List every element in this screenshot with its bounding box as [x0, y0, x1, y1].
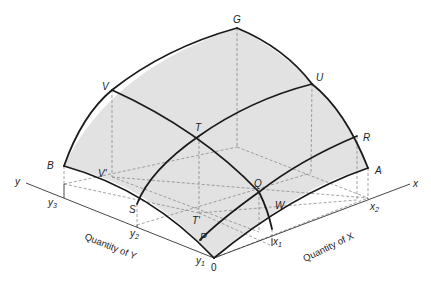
tick-y2: y2: [129, 228, 139, 240]
label-T: T: [195, 122, 202, 133]
tick-y1: y1: [195, 255, 205, 267]
label-V-prime: V': [98, 168, 108, 179]
label-G: G: [233, 14, 241, 25]
label-R: R: [363, 132, 370, 143]
label-V: V: [102, 81, 110, 92]
label-S: S: [129, 204, 136, 215]
tick-y3: y3: [47, 197, 57, 209]
surface: [64, 28, 368, 258]
tick-x1: x1: [272, 236, 282, 248]
label-B: B: [47, 160, 54, 171]
label-origin: 0: [211, 262, 217, 273]
production-surface-diagram: G U R A V T Q W B V' S T' P 0 y x y3 y2 …: [0, 0, 431, 285]
label-U: U: [316, 72, 324, 83]
y-axis-label: y: [14, 176, 21, 187]
tick-x2: x2: [369, 201, 379, 213]
x-axis-title: Quantity of X: [301, 230, 356, 264]
label-W: W: [275, 200, 286, 211]
label-Q: Q: [254, 178, 262, 189]
label-T-prime: T': [192, 215, 201, 226]
x-axis-label: x: [412, 178, 419, 189]
label-A: A: [374, 165, 382, 176]
label-P: P: [200, 232, 207, 243]
